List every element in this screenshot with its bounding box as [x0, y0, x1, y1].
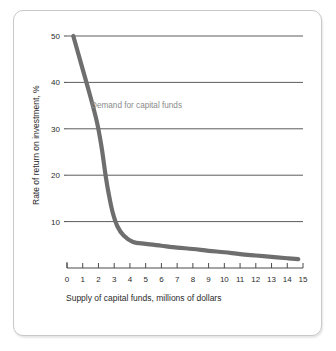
x-tick-label: 11	[236, 275, 245, 284]
x-tick-label: 10	[220, 275, 229, 284]
x-tick-label: 4	[128, 275, 133, 284]
y-axis-tick-labels: 1020304050	[51, 32, 60, 227]
x-tick-label: 3	[112, 275, 117, 284]
x-tick-label: 0	[65, 275, 70, 284]
tick-marks-group	[64, 36, 303, 268]
x-tick-label: 14	[283, 275, 292, 284]
y-tick-label: 10	[51, 218, 60, 227]
y-tick-label: 50	[51, 32, 60, 41]
gridlines-group	[67, 36, 303, 222]
x-tick-label: 6	[159, 275, 164, 284]
x-tick-label: 9	[206, 275, 211, 284]
y-tick-label: 20	[51, 171, 60, 180]
demand-curve-annotation: Demand for capital funds	[91, 101, 182, 110]
x-tick-label: 8	[191, 275, 196, 284]
x-axis-title: Supply of capital funds, millions of dol…	[66, 293, 221, 303]
axes-group	[67, 262, 303, 268]
x-tick-label: 5	[143, 275, 148, 284]
demand-curve-group	[73, 36, 298, 259]
x-axis-tick-labels: 0123456789101112131415	[65, 275, 308, 284]
x-tick-label: 12	[251, 275, 260, 284]
x-tick-label: 1	[81, 275, 86, 284]
y-tick-label: 30	[51, 125, 60, 134]
x-tick-label: 2	[96, 275, 101, 284]
demand-curve-line	[73, 36, 298, 259]
y-tick-label: 40	[51, 78, 60, 87]
x-tick-label: 7	[175, 275, 180, 284]
y-axis-title: Rate of return on investment, %	[31, 85, 41, 205]
x-tick-label: 13	[267, 275, 276, 284]
chart-plot-area: 1020304050 0123456789101112131415 Demand…	[0, 0, 336, 351]
x-tick-label: 15	[299, 275, 308, 284]
